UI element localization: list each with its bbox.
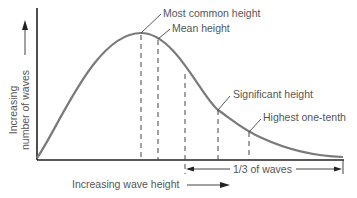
label-mean: Mean height	[172, 22, 230, 34]
wave-distribution-diagram: Most common height Mean height Significa…	[0, 0, 357, 198]
arrowhead-right-icon	[334, 167, 342, 172]
label-significant: Significant height	[233, 88, 313, 100]
arrow-right-icon	[220, 182, 230, 188]
arrow-up-icon	[22, 20, 28, 30]
label-third: 1/3 of waves	[233, 163, 292, 175]
svg-text:number of waves: number of waves	[19, 70, 31, 150]
dashed-markers	[141, 35, 249, 174]
y-axis-label: Increasing number of waves	[7, 70, 31, 150]
label-highest-tenth: Highest one-tenth	[263, 111, 346, 123]
label-most-common: Most common height	[163, 7, 261, 19]
svg-text:Increasing: Increasing	[7, 86, 19, 135]
arrowhead-left-icon	[186, 167, 194, 172]
x-axis-label: Increasing wave height	[72, 178, 179, 190]
